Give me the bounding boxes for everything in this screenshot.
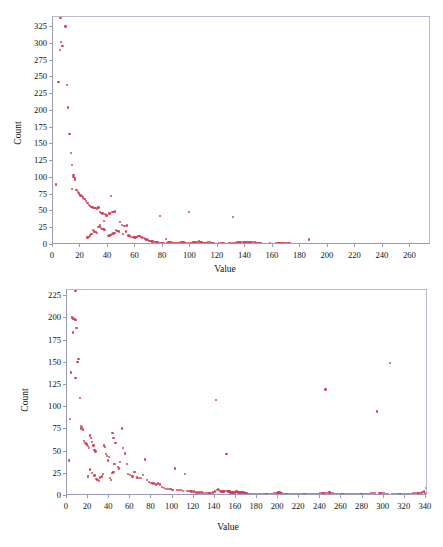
data-point — [374, 492, 376, 494]
y-tick-label: 300 — [18, 39, 47, 48]
x-tick-mark — [354, 244, 355, 247]
data-point — [96, 232, 98, 234]
data-point — [92, 444, 94, 446]
data-point — [57, 81, 59, 83]
x-tick-label: 220 — [340, 251, 368, 260]
x-tick-mark — [382, 244, 383, 247]
y-tick-mark — [49, 110, 52, 111]
data-point — [126, 463, 128, 465]
y-tick-label: 0 — [18, 240, 47, 249]
chart-panel-university-b: University B Count Value 025507510012515… — [0, 277, 443, 547]
y-tick-label: 50 — [18, 206, 47, 215]
x-tick-mark — [244, 244, 245, 247]
x-tick-label: 20 — [65, 251, 93, 260]
x-axis-label-b: Value — [198, 522, 258, 532]
y-tick-label: 175 — [18, 123, 47, 132]
data-point — [61, 45, 63, 47]
x-tick-mark — [134, 244, 135, 247]
data-point — [69, 418, 71, 420]
y-tick-label: 75 — [32, 424, 61, 433]
x-tick-mark — [150, 495, 151, 498]
x-tick-label: 120 — [203, 251, 231, 260]
x-tick-mark — [409, 244, 410, 247]
scatter-points-b — [67, 290, 426, 494]
data-point — [82, 428, 84, 430]
data-point — [70, 371, 72, 373]
plot-area-b — [66, 289, 427, 495]
data-point — [122, 447, 124, 449]
data-point — [387, 493, 389, 494]
data-point — [70, 152, 72, 154]
data-point — [59, 49, 61, 51]
data-point — [346, 243, 348, 244]
y-tick-mark — [49, 93, 52, 94]
y-tick-label: 200 — [18, 106, 47, 115]
x-tick-mark — [162, 244, 163, 247]
data-point — [308, 238, 310, 240]
data-point — [118, 467, 120, 469]
x-tick-mark — [107, 244, 108, 247]
data-point — [113, 463, 115, 465]
y-tick-label: 125 — [32, 380, 61, 389]
y-tick-label: 100 — [32, 402, 61, 411]
y-tick-mark — [49, 177, 52, 178]
y-axis-label-b: Count — [20, 375, 30, 425]
x-tick-mark — [66, 495, 67, 498]
data-point — [225, 453, 227, 455]
data-point — [133, 471, 135, 473]
data-point — [90, 437, 92, 439]
data-point — [111, 432, 113, 434]
x-tick-label: 180 — [285, 251, 313, 260]
data-point — [74, 319, 76, 321]
data-point — [89, 468, 91, 470]
y-tick-mark — [49, 227, 52, 228]
y-axis-label-a: Count — [13, 108, 23, 158]
data-point — [74, 290, 76, 292]
y-tick-mark — [49, 127, 52, 128]
data-point — [104, 446, 106, 448]
data-point — [93, 474, 95, 476]
data-point — [124, 452, 126, 454]
data-point — [74, 377, 76, 379]
data-point — [121, 427, 123, 429]
x-tick-mark — [299, 244, 300, 247]
y-tick-label: 175 — [32, 336, 61, 345]
y-tick-mark — [63, 295, 66, 296]
y-tick-label: 0 — [32, 491, 61, 500]
data-point — [97, 206, 99, 208]
data-point — [72, 331, 74, 333]
data-point — [406, 243, 408, 244]
data-point — [55, 183, 57, 185]
data-point — [142, 474, 144, 476]
data-point — [68, 133, 70, 135]
x-tick-mark — [129, 495, 130, 498]
y-tick-mark — [63, 473, 66, 474]
data-point — [104, 229, 106, 231]
data-point — [376, 410, 378, 412]
y-tick-label: 225 — [18, 89, 47, 98]
y-tick-mark — [49, 26, 52, 27]
y-tick-label: 150 — [18, 139, 47, 148]
x-tick-mark — [425, 495, 426, 498]
data-point — [338, 243, 340, 244]
data-point — [171, 489, 173, 491]
data-point — [60, 17, 62, 19]
data-point — [324, 388, 326, 390]
data-point — [108, 456, 110, 458]
data-point — [357, 243, 359, 244]
data-point — [110, 479, 112, 481]
data-point — [76, 361, 78, 363]
x-tick-label: 260 — [395, 251, 423, 260]
x-axis-label-a: Value — [195, 264, 255, 274]
data-point — [144, 458, 146, 460]
data-point — [91, 441, 93, 443]
y-tick-label: 250 — [18, 72, 47, 81]
data-point — [165, 238, 167, 240]
plot-area-a — [52, 16, 430, 244]
x-tick-mark — [87, 495, 88, 498]
data-point — [75, 327, 77, 329]
y-tick-label: 150 — [32, 358, 61, 367]
data-point — [159, 215, 161, 217]
x-tick-label: 60 — [120, 251, 148, 260]
data-point — [64, 25, 66, 27]
